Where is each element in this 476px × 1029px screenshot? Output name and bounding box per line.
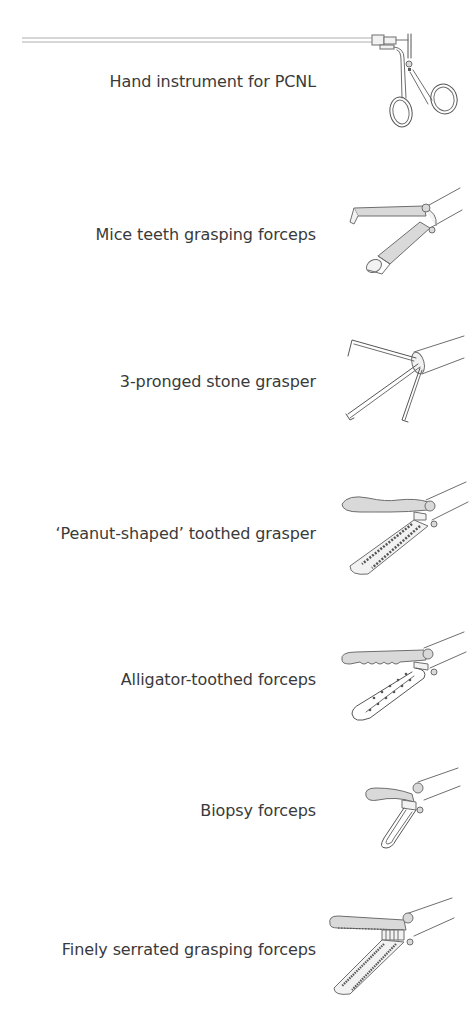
instrument-label: Alligator-toothed forceps — [121, 670, 316, 690]
instrument-label: Biopsy forceps — [200, 801, 316, 821]
alligator-forceps-icon — [336, 628, 476, 724]
instrument-figure: Hand instrument for PCNL Mice teeth gras… — [0, 0, 476, 1029]
peanut-toothed-grasper-icon — [328, 478, 476, 578]
instrument-label: Mice teeth grasping forceps — [96, 225, 316, 245]
instrument-label: 3-pronged stone grasper — [120, 372, 316, 392]
biopsy-forceps-icon — [362, 770, 476, 850]
instrument-label: Finely serrated grasping forceps — [62, 940, 316, 960]
instrument-label: Hand instrument for PCNL — [110, 72, 316, 92]
three-pronged-grasper-icon — [336, 330, 476, 430]
instrument-label: ‘Peanut-shaped’ toothed grasper — [56, 524, 316, 544]
mice-teeth-forceps-icon — [340, 182, 476, 282]
pcnl-hand-instrument-icon — [0, 0, 476, 140]
serrated-forceps-icon — [324, 898, 476, 998]
